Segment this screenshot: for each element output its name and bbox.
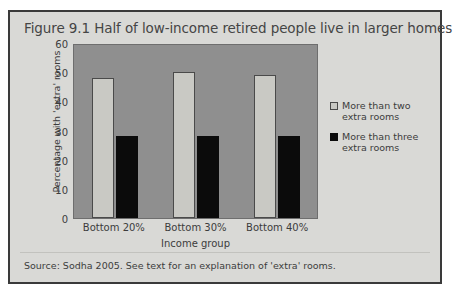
x-tick-label: Bottom 40% bbox=[246, 222, 308, 233]
source-divider bbox=[20, 252, 430, 253]
legend-label-line: More than two bbox=[342, 100, 411, 111]
x-axis-label: Income group bbox=[73, 238, 318, 249]
plot-area bbox=[73, 44, 318, 219]
bar-groups bbox=[74, 45, 317, 218]
y-tick-label: 20 bbox=[55, 155, 68, 166]
bar-group bbox=[92, 45, 138, 218]
chart-area: Percentage with 'extra' rooms 0102030405… bbox=[24, 44, 428, 244]
bar bbox=[254, 75, 276, 218]
x-tick-label: Bottom 20% bbox=[83, 222, 145, 233]
y-tick-label: 0 bbox=[62, 214, 68, 225]
bar-group bbox=[173, 45, 219, 218]
x-axis-ticks: Bottom 20%Bottom 30%Bottom 40% bbox=[73, 222, 318, 233]
bar bbox=[173, 72, 195, 218]
figure-panel: Figure 9.1 Half of low-income retired pe… bbox=[8, 10, 442, 284]
bar bbox=[92, 78, 114, 218]
legend-item: More than twoextra rooms bbox=[330, 100, 430, 122]
y-tick-label: 40 bbox=[55, 97, 68, 108]
legend-swatch-icon bbox=[330, 133, 338, 141]
y-tick-label: 50 bbox=[55, 68, 68, 79]
bar bbox=[197, 136, 219, 218]
bar bbox=[278, 136, 300, 218]
y-tick-label: 60 bbox=[55, 39, 68, 50]
legend-label-line: extra rooms bbox=[342, 142, 418, 153]
legend-label: More than threeextra rooms bbox=[342, 131, 418, 153]
source-note: Source: Sodha 2005. See text for an expl… bbox=[24, 260, 430, 271]
legend-item: More than threeextra rooms bbox=[330, 131, 430, 153]
y-tick-label: 30 bbox=[55, 126, 68, 137]
y-axis-ticks: 0102030405060 bbox=[42, 44, 68, 219]
legend-label-line: extra rooms bbox=[342, 111, 411, 122]
bar bbox=[116, 136, 138, 218]
figure-title: Figure 9.1 Half of low-income retired pe… bbox=[24, 20, 430, 36]
legend-label: More than twoextra rooms bbox=[342, 100, 411, 122]
y-tick-label: 10 bbox=[55, 184, 68, 195]
x-tick-label: Bottom 30% bbox=[164, 222, 226, 233]
bar-group bbox=[254, 45, 300, 218]
legend-label-line: More than three bbox=[342, 131, 418, 142]
chart-legend: More than twoextra roomsMore than threee… bbox=[330, 100, 430, 162]
legend-swatch-icon bbox=[330, 102, 338, 110]
